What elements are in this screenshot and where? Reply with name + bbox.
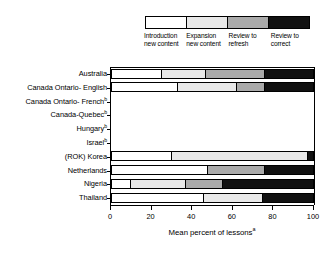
stacked-bar — [111, 165, 314, 175]
y-axis-tick — [107, 129, 110, 130]
stacked-bar — [111, 69, 314, 79]
stacked-bar — [111, 179, 314, 189]
x-axis-tick-label: 60 — [217, 212, 247, 221]
bar-segment — [223, 179, 314, 189]
stacked-bar — [111, 151, 314, 161]
y-axis-label: Thailand — [0, 191, 107, 205]
bar-segment — [308, 151, 314, 161]
y-axis-tick — [107, 198, 110, 199]
bar-segment — [237, 82, 265, 92]
y-axis-tick — [107, 74, 110, 75]
x-axis-tick-label: 40 — [176, 212, 206, 221]
bar-segment — [208, 165, 265, 175]
bar-segment — [265, 82, 314, 92]
legend-label-row: Introduction new contentExpansion new co… — [144, 32, 313, 48]
bar-segment — [162, 69, 207, 79]
y-axis-tick — [107, 184, 110, 185]
bar-segment — [178, 82, 237, 92]
stacked-bar — [111, 82, 314, 92]
y-axis-label: Netherlands — [0, 164, 107, 178]
x-axis-tick — [110, 206, 111, 210]
y-axis-label: Hungaryb — [0, 122, 107, 136]
bar-segment — [265, 69, 314, 79]
legend-swatch-0 — [146, 17, 187, 28]
bar-row — [111, 150, 314, 164]
bar-row — [111, 81, 314, 95]
x-axis-tick — [191, 206, 192, 210]
chart-legend: Introduction new contentExpansion new co… — [145, 16, 310, 48]
bar-segment — [263, 193, 314, 203]
plot-area — [110, 67, 315, 205]
bar-segment — [111, 69, 162, 79]
legend-swatch-1 — [187, 17, 228, 28]
y-axis-label: (ROK) Korea — [0, 150, 107, 164]
y-axis-label: Nigeria — [0, 177, 107, 191]
bar-segment — [206, 69, 265, 79]
y-axis-tick — [107, 102, 110, 103]
y-axis-tick — [107, 157, 110, 158]
bar-row — [111, 67, 314, 81]
legend-label-2: Review to refresh — [229, 32, 271, 48]
bar-segment — [172, 151, 308, 161]
bar-row — [111, 191, 314, 205]
y-axis-labels: AustraliaCanada Ontario- EnglishCanada O… — [0, 67, 107, 205]
bar-segment — [265, 165, 314, 175]
bar-row — [111, 136, 314, 150]
y-axis-tick — [107, 115, 110, 116]
bar-segment — [204, 193, 263, 203]
y-axis-label: Canada Ontario- Frenchb — [0, 95, 107, 109]
bar-segment — [186, 179, 223, 189]
bar-row — [111, 95, 314, 109]
y-axis-label: Australia — [0, 67, 107, 81]
legend-label-0: Introduction new content — [144, 32, 186, 48]
x-axis-tick — [272, 206, 273, 210]
legend-swatch-3 — [269, 17, 309, 28]
bar-segment — [111, 179, 131, 189]
x-axis-tick-label: 20 — [136, 212, 166, 221]
legend-swatch-strip — [145, 16, 310, 29]
legend-label-1: Expansion new content — [186, 32, 228, 48]
y-axis-label: Canada-Quebecb — [0, 108, 107, 122]
bar-segment — [111, 193, 204, 203]
stacked-bar — [111, 193, 314, 203]
legend-swatch-2 — [228, 17, 269, 28]
x-axis-title: Mean percent of lessonsa — [110, 228, 314, 237]
x-axis-tick — [232, 206, 233, 210]
bar-row — [111, 164, 314, 178]
y-axis-tick — [107, 88, 110, 89]
y-axis-label: Canada Ontario- English — [0, 81, 107, 95]
y-axis-tick — [107, 143, 110, 144]
legend-label-3: Review to correct — [271, 32, 313, 48]
x-axis-tick-label: 80 — [257, 212, 287, 221]
x-axis-tick-label: 100 — [298, 212, 328, 221]
y-axis-label: Israelb — [0, 136, 107, 150]
bar-segment — [131, 179, 186, 189]
x-axis-tick — [151, 206, 152, 210]
bar-segment — [111, 165, 208, 175]
x-axis-tick — [313, 206, 314, 210]
x-axis-tick-label: 0 — [95, 212, 125, 221]
y-axis-tick — [107, 171, 110, 172]
bar-row — [111, 177, 314, 191]
bar-segment — [111, 82, 178, 92]
bar-row — [111, 108, 314, 122]
bar-row — [111, 122, 314, 136]
plot-bottom-border — [110, 205, 314, 206]
stacked-bar-chart: Introduction new contentExpansion new co… — [0, 0, 329, 256]
bar-segment — [111, 151, 172, 161]
